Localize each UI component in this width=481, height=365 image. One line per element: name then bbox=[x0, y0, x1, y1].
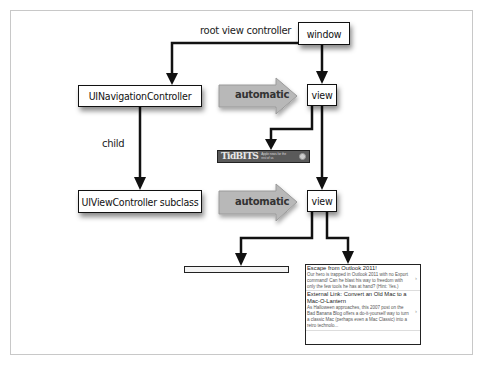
chevron-right-icon: › bbox=[415, 309, 417, 315]
edge-label-child: child bbox=[102, 138, 124, 149]
automatic-arrow-top: automatic bbox=[235, 89, 289, 100]
cell-body: Our hero is trapped in Outlook 2011 with… bbox=[307, 272, 410, 289]
node-view-bottom: view bbox=[307, 190, 337, 212]
automatic-arrow-bottom: automatic bbox=[235, 196, 289, 207]
node-uinavigationcontroller: UINavigationController bbox=[78, 85, 202, 107]
node-uiviewcontroller-subclass: UIViewController subclass bbox=[78, 190, 202, 213]
edge-label-root-view-controller: root view controller bbox=[200, 25, 291, 36]
cell-title: Escape from Outlook 2011! bbox=[307, 265, 410, 272]
cell-title: External Link: Convert an Old Mac to a M… bbox=[307, 291, 410, 305]
tidbits-tagline: Apple news for the rest of us bbox=[261, 153, 291, 160]
node-view-top: view bbox=[307, 84, 337, 106]
chevron-right-icon: › bbox=[415, 276, 417, 282]
table-cell: Escape from Outlook 2011! Our hero is tr… bbox=[306, 265, 420, 291]
info-button-icon bbox=[299, 153, 306, 160]
tidbits-logo: TidBITS bbox=[221, 152, 258, 161]
tidbits-banner-image: TidBITS Apple news for the rest of us bbox=[217, 150, 310, 163]
cell-body: As Halloween approaches, this 2007 post … bbox=[307, 305, 410, 328]
node-window: window bbox=[298, 22, 350, 45]
search-bar-image bbox=[184, 266, 289, 273]
table-view-image: Escape from Outlook 2011! Our hero is tr… bbox=[305, 264, 421, 345]
table-cell: External Link: Convert an Old Mac to a M… bbox=[306, 291, 420, 330]
